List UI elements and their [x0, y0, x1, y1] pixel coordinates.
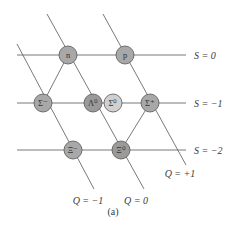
particle-xi-minus: Ξ⁻ [64, 141, 82, 159]
particle-n: n [59, 46, 77, 64]
particle-label: Ξ⁻ [68, 145, 78, 155]
strangeness-label: S = −1 [194, 98, 223, 109]
particle-sigma-plus: Σ⁺ [141, 94, 159, 112]
figure-caption: (a) [107, 206, 118, 218]
particle-sigma-minus: Σ⁻ [34, 94, 52, 112]
particle-label: p [123, 50, 127, 60]
particle-p: p [116, 46, 134, 64]
particle-label: Σ⁺ [145, 98, 155, 108]
particle-label: Λ⁰ [88, 98, 98, 108]
strangeness-label: S = −2 [194, 145, 223, 156]
q-minus1-line [17, 44, 94, 189]
particle-nodes: npΣ⁻Λ⁰Σ⁰Σ⁺Ξ⁻Ξ⁰ [34, 46, 159, 159]
particle-sigma-zero: Σ⁰ [104, 94, 122, 112]
particle-label: Σ⁰ [109, 98, 118, 108]
q-plus1-line [103, 14, 186, 165]
charge-label: Q = 0 [124, 195, 148, 206]
axis-labels: S = 0S = −1S = −2Q = −1Q = 0Q = +1 [73, 50, 223, 207]
particle-label: Σ⁻ [38, 98, 48, 108]
particle-lambda-zero: Λ⁰ [84, 94, 102, 112]
charge-label: Q = −1 [73, 195, 104, 206]
charge-label: Q = +1 [165, 168, 196, 179]
diagram-svg: npΣ⁻Λ⁰Σ⁰Σ⁺Ξ⁻Ξ⁰ S = 0S = −1S = −2Q = −1Q … [0, 0, 237, 227]
strangeness-label: S = 0 [194, 50, 216, 61]
particle-xi-zero: Ξ⁰ [112, 141, 130, 159]
particle-label: Ξ⁰ [116, 145, 125, 155]
baryon-octet-diagram: npΣ⁻Λ⁰Σ⁰Σ⁺Ξ⁻Ξ⁰ S = 0S = −1S = −2Q = −1Q … [0, 0, 237, 227]
